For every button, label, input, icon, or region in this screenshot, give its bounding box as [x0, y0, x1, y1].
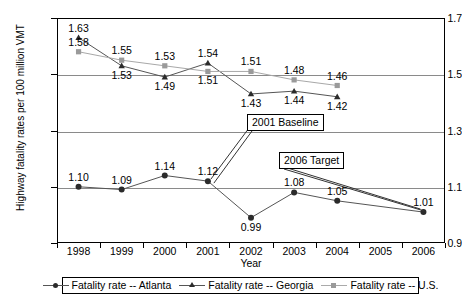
data-point-marker — [119, 58, 124, 63]
callout-2006-target: 2006 Target — [279, 152, 344, 169]
data-point-label: 1.01 — [403, 197, 443, 208]
data-point-label: 1.42 — [317, 101, 357, 112]
data-point-label: 1.10 — [59, 172, 99, 183]
data-point-label: 1.14 — [145, 161, 185, 172]
data-point-marker — [292, 77, 297, 82]
data-point-marker — [248, 215, 254, 221]
data-point-marker — [205, 178, 211, 184]
data-point-label: 1.54 — [188, 48, 228, 59]
legend-label-georgia: Fatality rate -- Georgia — [208, 280, 313, 291]
data-point-label: 1.12 — [188, 166, 228, 177]
callout-2001-baseline: 2001 Baseline — [247, 114, 324, 131]
data-point-marker — [162, 63, 167, 68]
legend-item-atlanta: Fatality rate -- Atlanta — [39, 280, 176, 291]
data-point-marker — [205, 60, 211, 66]
highway-fatality-rate-chart: Highway fatality rates per 100 million V… — [0, 0, 462, 306]
data-point-marker — [248, 69, 253, 74]
square-marker-icon — [321, 281, 347, 290]
data-point-label: 1.43 — [231, 98, 271, 109]
data-point-label: 1.63 — [59, 23, 99, 34]
data-point-marker — [118, 63, 124, 69]
data-point-marker — [335, 83, 340, 88]
legend-label-atlanta: Fatality rate -- Atlanta — [72, 280, 172, 291]
data-point-marker — [119, 187, 125, 193]
data-point-label: 1.53 — [102, 70, 142, 81]
data-point-marker — [205, 69, 210, 74]
data-point-marker — [76, 49, 81, 54]
data-point-label: 1.05 — [317, 186, 357, 197]
data-point-label: 1.08 — [274, 177, 314, 188]
data-point-marker — [76, 184, 82, 190]
chart-legend: Fatality rate -- Atlanta Fatality rate -… — [62, 277, 419, 294]
data-point-label: 1.48 — [274, 65, 314, 76]
circle-marker-icon — [43, 281, 69, 290]
legend-item-georgia: Fatality rate -- Georgia — [175, 280, 317, 291]
legend-item-us: Fatality rate -- U.S. — [317, 280, 442, 291]
triangle-marker-icon — [179, 281, 205, 290]
data-point-marker — [291, 189, 297, 195]
data-point-label: 1.51 — [188, 75, 228, 86]
data-point-marker — [291, 88, 297, 94]
data-point-label: 1.58 — [59, 37, 99, 48]
data-point-label: 1.46 — [317, 71, 357, 82]
data-point-marker — [162, 173, 168, 179]
data-point-label: 1.53 — [145, 51, 185, 62]
data-point-label: 1.51 — [231, 56, 271, 67]
data-point-label: 1.49 — [145, 81, 185, 92]
data-point-label: 1.44 — [274, 95, 314, 106]
data-point-label: 0.99 — [231, 222, 271, 233]
data-point-label: 1.55 — [102, 45, 142, 56]
data-point-label: 1.09 — [102, 175, 142, 186]
legend-label-us: Fatality rate -- U.S. — [350, 280, 438, 291]
data-point-marker — [334, 198, 340, 204]
